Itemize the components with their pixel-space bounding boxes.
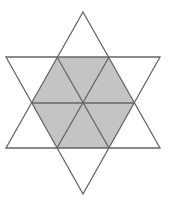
hexagram-diagram	[0, 0, 170, 208]
